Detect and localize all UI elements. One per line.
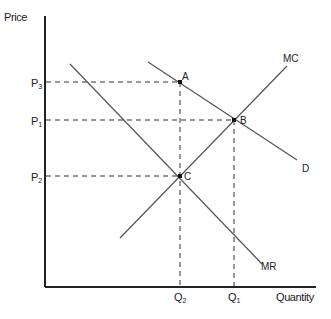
point-b-marker: [232, 118, 236, 122]
x-axis-label: Quantity: [276, 291, 315, 303]
q1-label: Q1: [228, 291, 241, 304]
d-label: D: [302, 163, 309, 174]
p1-label: P1: [31, 115, 42, 128]
point-a-label: A: [182, 71, 189, 82]
mr-label: MR: [261, 261, 277, 272]
point-b-label: B: [240, 115, 247, 126]
mc-label: MC: [283, 53, 299, 64]
point-c-marker: [178, 174, 182, 178]
y-axis-label: Price: [4, 11, 27, 23]
marginal-revenue-curve: [70, 64, 262, 264]
demand-curve: [148, 62, 297, 160]
marginal-cost-curve: [120, 66, 287, 238]
p3-label: P3: [31, 77, 42, 90]
point-c-label: C: [184, 171, 191, 182]
monopoly-diagram: Price Quantity P3 P1 P2 Q2 Q1 MC D MR A …: [0, 0, 331, 319]
p2-label: P2: [31, 171, 42, 184]
q2-label: Q2: [174, 291, 187, 304]
